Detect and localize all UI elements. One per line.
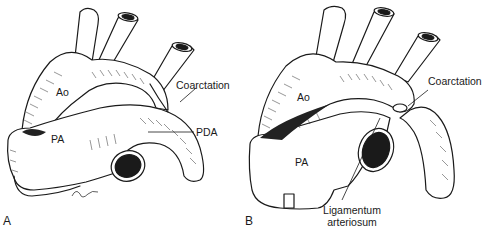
label-aorta: Ao: [297, 92, 310, 103]
label-pulmonary-artery: PA: [51, 134, 64, 145]
label-pulmonary-artery: PA: [295, 157, 308, 168]
label-ligamentum-line1: Ligamentum: [316, 205, 388, 216]
panel-a-illustration: Ao PA Coarctation PDA A: [0, 0, 240, 235]
label-pda: PDA: [196, 127, 218, 138]
panel-b-illustration: Ao PA Coarctation Ligamentum arteriosum …: [240, 0, 483, 235]
label-coarctation: Coarctation: [428, 76, 482, 87]
label-ligamentum-line2: arteriosum: [316, 217, 388, 228]
label-aorta: Ao: [56, 87, 69, 98]
label-ligamentum-arteriosum: Ligamentum arteriosum: [316, 205, 388, 227]
panel-label-a: A: [3, 215, 11, 227]
label-coarctation: Coarctation: [176, 80, 230, 91]
heart-vessels-drawing-a: [0, 0, 240, 235]
heart-vessels-drawing-b: [240, 0, 483, 235]
panel-label-b: B: [245, 215, 253, 227]
